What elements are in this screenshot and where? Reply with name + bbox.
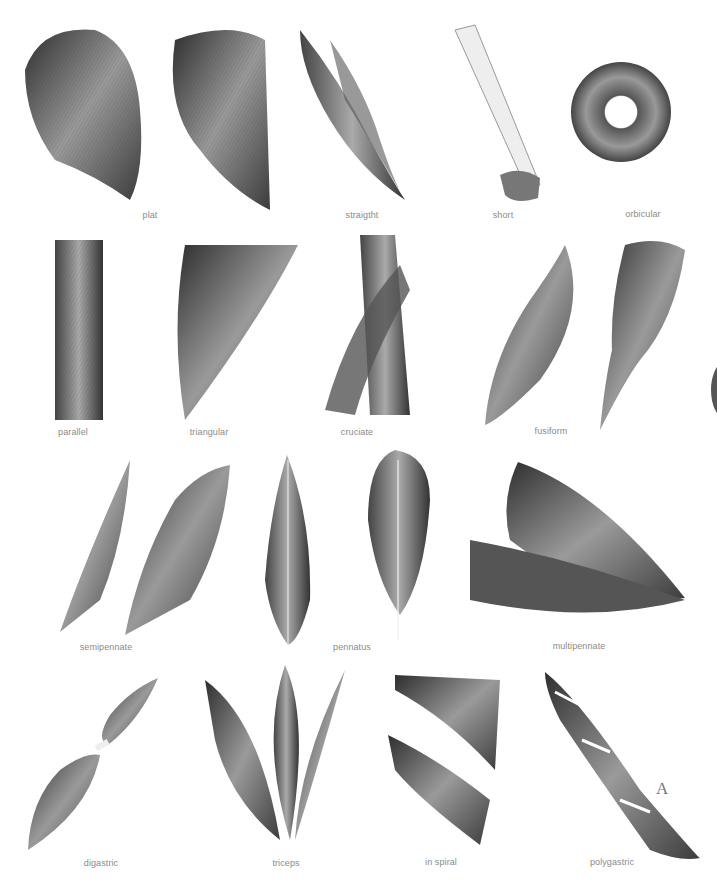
triangular-muscle [178, 245, 299, 420]
partial-muscle-edge [711, 362, 717, 418]
straight-muscle-2 [300, 30, 405, 200]
label-pennatus: pennatus [333, 642, 371, 652]
parallel-muscle [55, 240, 103, 420]
label-triangular: triangular [190, 427, 229, 437]
label-polygastric: polygastric [590, 857, 634, 867]
label-parallel: parallel [58, 427, 88, 437]
polygastric-muscle [545, 672, 700, 859]
fusiform-muscle-2 [600, 241, 685, 430]
label-in-spiral: in spiral [425, 857, 457, 867]
label-short: short [493, 210, 514, 220]
label-triceps: triceps [272, 858, 299, 868]
label-straight: straigtht [346, 210, 379, 220]
label-cruciate: cruciate [341, 427, 373, 437]
label-orbicular: orbicular [625, 209, 660, 219]
multipennate-muscle [470, 462, 685, 613]
label-plat: plat [143, 210, 158, 220]
plat-muscle [25, 30, 141, 201]
label-multipennate: multipennate [553, 641, 606, 651]
cruciate-muscle [325, 235, 410, 415]
label-fusiform: fusiform [535, 426, 568, 436]
in-spiral-muscle [388, 675, 500, 845]
muscle-illustrations [0, 0, 717, 887]
semipennate-muscle [60, 460, 230, 635]
label-semipennate: semipennate [80, 642, 133, 652]
fusiform-muscle [485, 245, 573, 425]
label-digastric: digastric [84, 858, 118, 868]
orbicular-muscle [571, 62, 671, 162]
digastric-muscle [28, 678, 158, 850]
short-muscle-bone [455, 25, 540, 201]
straight-muscle [173, 30, 270, 210]
pennatus-muscle [265, 450, 430, 645]
plate-corner-letter: A [656, 779, 668, 799]
triceps-muscle [205, 665, 345, 840]
